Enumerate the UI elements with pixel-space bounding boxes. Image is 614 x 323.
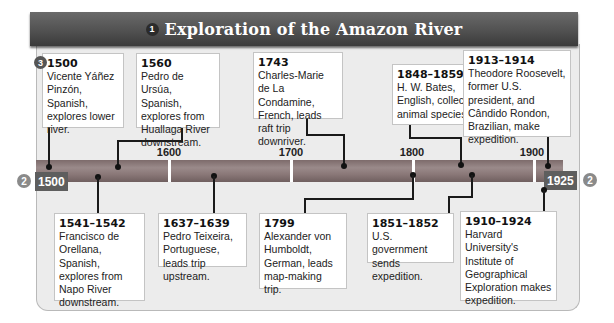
- tick-label-1800: 1800: [400, 146, 424, 158]
- connector-1848-a: [409, 124, 411, 138]
- event-text: U.S. government sends expedition.: [372, 230, 427, 282]
- event-text: H. W. Bates, English, collects animal sp…: [397, 81, 472, 119]
- connector-1637: [213, 176, 215, 213]
- event-box-1560: 1560 Pedro de Ursúa, Spanish, explores f…: [136, 53, 220, 128]
- event-text: Alexander von Humboldt, German, leads ma…: [264, 230, 333, 295]
- timeline-bar: [36, 160, 563, 182]
- event-text: Pedro Teixeira, Portuguese, leads trip u…: [163, 230, 233, 282]
- connector-1851-c: [448, 196, 450, 213]
- callout-badge-2-right: 2: [583, 173, 597, 187]
- event-box-1541: 1541–1542 Francisco de Orellana, Spanish…: [54, 213, 145, 301]
- callout-badge-2-left: 2: [17, 174, 31, 188]
- event-box-1799: 1799 Alexander von Humboldt, German, lea…: [259, 213, 347, 289]
- event-text: Harvard University's Institute of Geogra…: [465, 228, 551, 306]
- marker-dot-1500: [46, 164, 52, 170]
- callout-badge-1: 1: [146, 23, 159, 36]
- event-box-1913: 1913–1914 Theodore Roosevelt, former U.S…: [463, 50, 571, 137]
- connector-1799-a: [412, 175, 414, 199]
- event-year: 1913–1914: [468, 54, 566, 67]
- connector-1848-c: [460, 137, 462, 165]
- event-year: 1560: [141, 57, 215, 70]
- tick-label-1900: 1900: [520, 146, 544, 158]
- timeline-end-label: 1925: [544, 171, 577, 190]
- event-text: Charles-Marie de La Condamine, French, l…: [258, 69, 324, 147]
- event-year: 1851–1852: [372, 217, 449, 230]
- event-year: 1910–1924: [465, 215, 552, 228]
- marker-dot-1560: [115, 164, 121, 170]
- event-box-1637: 1637–1639 Pedro Teixeira, Portuguese, le…: [158, 213, 247, 267]
- event-box-1500: 1500 Vicente Yáñez Pinzón, Spanish, expl…: [42, 53, 124, 128]
- event-year: 1743: [258, 56, 338, 69]
- connector-1910: [543, 190, 545, 211]
- connector-1560-c: [117, 140, 119, 167]
- connector-1848-b: [409, 137, 461, 139]
- event-text: Vicente Yáñez Pinzón, Spanish, explores …: [47, 70, 115, 135]
- event-box-1910: 1910–1924 Harvard University's Institute…: [460, 211, 557, 301]
- event-year: 1500: [47, 57, 119, 70]
- page-title: Exploration of the Amazon River: [165, 20, 463, 39]
- callout-badge-3: 3: [34, 56, 47, 69]
- tick-1600: [168, 160, 171, 182]
- marker-dot-1913: [545, 163, 551, 169]
- event-box-1743: 1743 Charles-Marie de La Condamine, Fren…: [253, 52, 343, 119]
- event-year: 1541–1542: [59, 217, 140, 230]
- event-text: Pedro de Ursúa, Spanish, explores from H…: [141, 70, 210, 148]
- marker-dot-1743: [341, 163, 347, 169]
- event-box-1851: 1851–1852 U.S. government sends expediti…: [367, 213, 454, 263]
- event-text: Francisco de Orellana, Spanish, explores…: [59, 230, 123, 308]
- connector-1541: [97, 177, 99, 213]
- event-text: Theodore Roosevelt, former U.S. presiden…: [468, 67, 565, 145]
- marker-dot-1848: [458, 162, 464, 168]
- tick-1700: [290, 160, 293, 182]
- connector-1851-a: [471, 175, 473, 197]
- event-year: 1799: [264, 217, 342, 230]
- title-bar: 1 Exploration of the Amazon River: [30, 12, 578, 46]
- connector-1743-c: [343, 134, 345, 166]
- connector-1799-c: [304, 198, 306, 213]
- tick-1900: [533, 160, 536, 182]
- timeline-start-label: 1500: [35, 172, 68, 191]
- event-year: 1637–1639: [163, 217, 242, 230]
- connector-1799-b: [304, 198, 414, 200]
- connector-1851-b: [448, 196, 473, 198]
